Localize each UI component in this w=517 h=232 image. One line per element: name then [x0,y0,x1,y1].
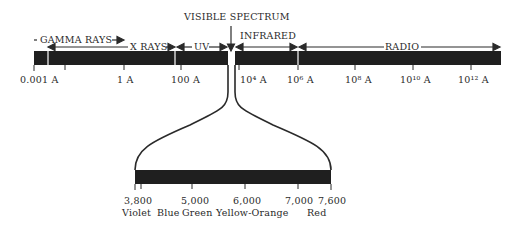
visible-scale-label: 3,800 [124,195,152,206]
visible-scale-label: 7,000 [285,195,313,206]
spectrum-bar-right [235,51,501,65]
band-infrared: INFRARED [240,30,296,41]
scale-label: 10⁸ A [345,74,372,85]
spectrum-bar-left [34,51,228,65]
scale-label: 1 A [117,74,134,85]
color-yellow-orange: Yellow-Orange [216,207,289,218]
color-green: Green [182,207,213,218]
visible-bar [135,170,331,184]
visible-scale-label: 6,000 [233,195,261,206]
scale-label: 0.001 A [20,74,58,85]
scale-label: 10⁶ A [287,74,314,85]
color-violet: Violet [122,207,151,218]
color-red: Red [307,207,326,218]
visible-scale-label: 5,000 [181,195,209,206]
band-gamma-rays: GAMMA RAYS [40,34,112,45]
band-uv: UV [194,41,209,52]
band-x-rays: X RAYS [130,41,167,52]
band-radio: RADIO [385,41,419,52]
scale-label: 100 A [171,74,200,85]
visible-spectrum-title: VISIBLE SPECTRUM [184,11,290,22]
scale-label: 10¹⁰ A [400,74,431,85]
scale-label: 10⁴ A [240,74,267,85]
scale-label: 10¹² A [458,74,489,85]
color-blue: Blue [157,207,180,218]
visible-scale-label: 7,600 [318,195,346,206]
